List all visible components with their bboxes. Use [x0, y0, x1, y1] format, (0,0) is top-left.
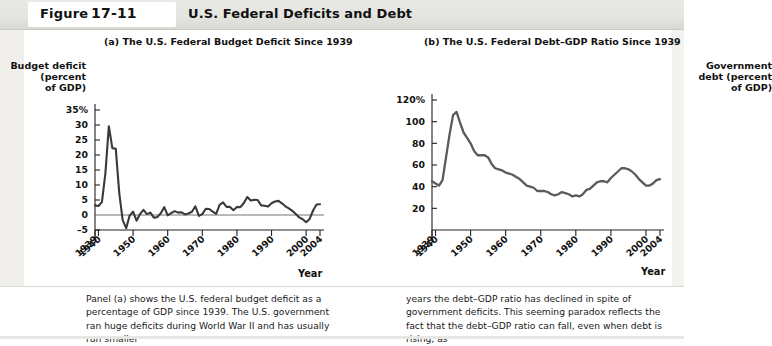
- figure-title: U.S. Federal Deficits and Debt: [188, 6, 412, 21]
- y-tick-label: 15: [75, 164, 88, 175]
- y-tick-label: 100: [406, 116, 426, 127]
- panel-b-title: (b) The U.S. Federal Debt–GDP Ratio Sinc…: [424, 36, 681, 47]
- y-tick-label: 35%: [66, 104, 89, 115]
- data-series-line: [95, 126, 320, 228]
- x-tick-label: 1970: [518, 233, 545, 259]
- chart-panel-a: Budget deficit(percentof GDP) –505101520…: [0, 52, 342, 284]
- x-tick-label: 1980: [215, 233, 242, 259]
- panel-a-plot: –505101520253035%19391940195019601970198…: [0, 52, 342, 284]
- panel-a-x-axis-title: Year: [298, 268, 322, 279]
- y-tick-label: 5: [82, 194, 88, 205]
- y-tick-label: 120%: [396, 94, 425, 105]
- panel-b-plot: 20406080100120%1939194019501960197019801…: [342, 52, 684, 284]
- y-tick-label: 60: [412, 159, 425, 170]
- y-tick-label: 40: [412, 181, 425, 192]
- x-tick-label: 1970: [180, 233, 207, 259]
- x-tick-label: 1990: [249, 233, 276, 259]
- x-tick-label: 1990: [589, 233, 616, 259]
- y-tick-label: 25: [75, 134, 88, 145]
- figure-word: Figure: [40, 6, 88, 21]
- x-tick-label: 1950: [111, 233, 138, 259]
- figure-number: 17-11: [91, 5, 137, 21]
- page-bottom-edge: [0, 336, 684, 339]
- x-tick-label: 1950: [448, 233, 475, 259]
- chart-panel-b: Governmentdebt (percentof GDP) 204060801…: [342, 52, 684, 284]
- x-tick-label: 1980: [554, 233, 581, 259]
- y-tick-label: 80: [412, 138, 425, 149]
- y-tick-label: –5: [77, 224, 88, 235]
- panel-b-y-axis-title: Governmentdebt (percentof GDP): [692, 60, 772, 93]
- x-tick-label: 1960: [483, 233, 510, 259]
- panel-a-title: (a) The U.S. Federal Budget Deficit Sinc…: [104, 36, 353, 47]
- y-tick-label: 0: [82, 209, 89, 220]
- panel-b-x-axis-title: Year: [641, 266, 665, 277]
- y-tick-label: 30: [75, 119, 88, 130]
- y-tick-label: 20: [75, 149, 88, 160]
- x-tick-label: 1960: [145, 233, 172, 259]
- y-tick-label: 10: [75, 179, 88, 190]
- data-series-line: [432, 112, 660, 197]
- y-tick-label: 20: [412, 203, 425, 214]
